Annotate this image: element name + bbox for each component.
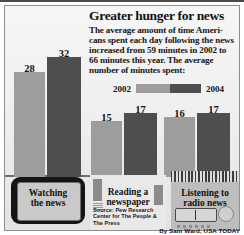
radio-tuner-needle [195, 210, 196, 220]
bar-2002-radio [164, 117, 195, 177]
bar-value-2004-radio: 17 [197, 104, 230, 115]
legend: 2002 2004 [113, 82, 237, 95]
caption-radio-line2: radio news [172, 198, 238, 208]
caption-watching-the-news: Watching the news [17, 188, 79, 209]
source-credit: Source: Pew Research Center for The Peop… [93, 207, 165, 226]
radio-speaker-grille [171, 171, 239, 182]
bar-2004-newspaper [124, 113, 157, 177]
chart-deck: The average amount of time Ameri-cans sp… [89, 25, 237, 75]
chart-title: Greater hunger for news [89, 9, 237, 23]
bar-2004-watching [47, 57, 81, 177]
usa-today-infographic: 28 32 15 17 16 17 Greater hunger for new… [0, 0, 244, 235]
caption-reading-a-newspaper: Reading a newspaper [95, 187, 161, 208]
bar-value-2004-watching: 32 [47, 48, 81, 59]
legend-swatch-2002 [136, 84, 170, 93]
legend-swatch-2004 [170, 84, 201, 93]
bar-2004-radio [197, 113, 230, 177]
bar-value-2002-newspaper: 15 [91, 112, 122, 123]
bar-value-2004-newspaper: 17 [124, 104, 157, 115]
headline-block: Greater hunger for news The average amou… [89, 9, 237, 75]
radio-tuner-dial [175, 208, 217, 222]
caption-listening-to-radio-news: Listening to radio news [172, 188, 238, 209]
bar-2002-newspaper [91, 121, 122, 177]
caption-watching-line1: Watching [17, 188, 79, 198]
bar-value-2002-watching: 28 [14, 63, 45, 74]
bar-2002-watching [14, 72, 45, 177]
legend-label-2002: 2002 [113, 84, 131, 94]
caption-newspaper-line1: Reading a [95, 187, 161, 197]
chart-frame: 28 32 15 17 16 17 Greater hunger for new… [4, 5, 240, 231]
top-rule [0, 0, 244, 2]
caption-watching-line2: the news [17, 198, 79, 208]
caption-radio-line1: Listening to [172, 188, 238, 198]
bar-value-2002-radio: 16 [164, 108, 195, 119]
legend-label-2004: 2004 [206, 84, 224, 94]
byline: By Sam Ward, USA TODAY [159, 227, 240, 234]
